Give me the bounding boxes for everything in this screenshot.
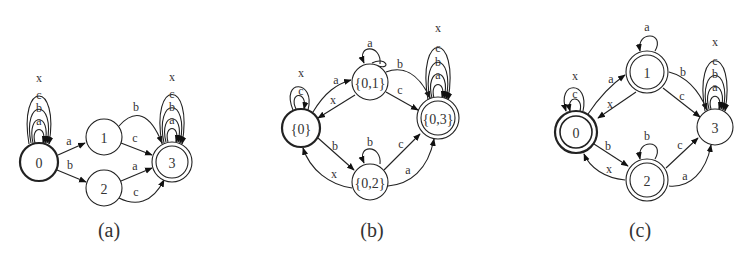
panel-c: c x a x b x a b b c c a a: [555, 20, 733, 242]
edge-label: c: [677, 138, 682, 152]
state-label: 1: [101, 131, 108, 146]
state-c-3: 3: [697, 109, 733, 145]
edge-label: x: [572, 69, 578, 83]
edge-label: a: [169, 113, 175, 127]
state-a-1: 1: [86, 119, 122, 155]
edge-label: a: [712, 80, 718, 94]
state-a-3-accepting: 3: [152, 142, 192, 182]
edge-label: c: [298, 84, 303, 98]
edge-label: x: [712, 35, 718, 49]
state-b-01: {0,1}: [352, 64, 388, 100]
state-label: 1: [644, 66, 651, 81]
edge-label: c: [133, 185, 138, 199]
state-label: 2: [101, 182, 108, 197]
edge-label: b: [397, 57, 403, 71]
edge-label: b: [169, 100, 175, 114]
edge-label: a: [682, 169, 688, 183]
edge-label: c: [435, 41, 440, 55]
edge-label: a: [333, 73, 339, 87]
edge-label: b: [435, 55, 441, 69]
edge-label: c: [572, 87, 577, 101]
edge-label: a: [36, 114, 42, 128]
edge-label: b: [605, 139, 611, 153]
edge-label: x: [606, 162, 612, 176]
state-c-2-accepting: 2: [626, 159, 668, 201]
state-label: 0: [36, 156, 43, 171]
edge-label: x: [169, 70, 175, 84]
state-b-02: {0,2}: [352, 164, 388, 200]
self-loop-a-0: a b c x: [27, 71, 51, 144]
edge-label: b: [36, 101, 42, 115]
edge-label: b: [712, 67, 718, 81]
state-a-0: 0: [20, 143, 58, 181]
edge-label: x: [298, 66, 304, 80]
state-label: {0,3}: [423, 112, 454, 127]
edge-label: c: [36, 88, 41, 102]
state-c-0-start-accepting: 0: [555, 111, 597, 153]
edge-label: x: [331, 167, 337, 181]
edge-label: b: [644, 129, 650, 143]
state-b-0: {0}: [282, 109, 320, 147]
edge-label: b: [332, 139, 338, 153]
automata-figure: a b c x a b b c a c a b c x: [0, 0, 734, 256]
edge-label: c: [169, 87, 174, 101]
edge-label: c: [712, 54, 717, 68]
edge-label: a: [435, 68, 441, 82]
caption-b: (b): [360, 219, 383, 242]
edge-label: b: [67, 158, 73, 172]
edge-label: c: [679, 89, 684, 103]
edge-label: a: [608, 72, 614, 86]
state-label: {0,2}: [355, 176, 386, 191]
edge-label: c: [398, 137, 403, 151]
edge-label: x: [330, 93, 336, 107]
state-label: {0}: [291, 122, 311, 137]
edge-label: x: [607, 97, 613, 111]
edge-label: a: [405, 163, 411, 177]
edge-label: c: [397, 83, 402, 97]
self-loop-b-03: a b c x: [426, 21, 450, 100]
edge-label: b: [680, 65, 686, 79]
state-label: 3: [169, 156, 176, 171]
edge-label: a: [66, 134, 72, 148]
self-loop-c-3: a b c x: [703, 35, 727, 111]
edge-label: x: [435, 21, 441, 35]
edge-label: b: [133, 100, 139, 114]
edge-label: x: [36, 71, 42, 85]
state-a-2: 2: [86, 170, 122, 206]
edge-label: b: [367, 135, 373, 149]
edge-label: a: [132, 159, 138, 173]
state-label: 3: [712, 121, 719, 136]
state-label: 0: [573, 126, 580, 141]
self-loop-a-3: a b c x: [160, 70, 184, 144]
caption-a: (a): [98, 219, 120, 242]
edge-label: a: [644, 20, 650, 34]
caption-c: (c): [629, 219, 651, 242]
panel-b: c x a x b x a b b c c a a: [282, 21, 459, 242]
state-c-1-accepting: 1: [626, 51, 668, 93]
panel-a: a b c x a b b c a c a b c x: [20, 70, 192, 242]
state-label: 2: [644, 174, 651, 189]
edge-label: a: [367, 36, 373, 50]
state-label: {0,1}: [355, 76, 386, 91]
state-b-03-accepting: {0,3}: [417, 97, 459, 139]
edge-label: c: [132, 131, 137, 145]
